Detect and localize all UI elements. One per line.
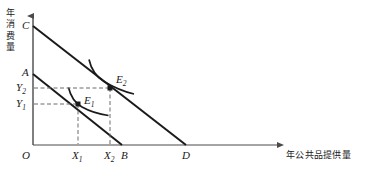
point-label-y2-sub: 2 [22, 87, 26, 96]
point-label-y1: Y1 [16, 98, 26, 112]
point-label-x1-sub: 1 [79, 155, 83, 164]
point-label-b: B [121, 150, 128, 161]
point-label-x1-base: X [72, 149, 79, 161]
economics-diagram: 年消费量 年公共品提供量 O C A Y2 Y1 X1 X2 B D E1 E2 [0, 0, 367, 178]
equilibrium-point-e2 [108, 86, 113, 91]
point-label-y1-sub: 1 [22, 103, 26, 112]
equilibrium-label-e1-sub: 1 [91, 100, 95, 109]
equilibrium-point-e1 [76, 102, 81, 107]
point-label-d: D [182, 150, 190, 161]
origin-label: O [22, 150, 30, 161]
equilibrium-label-e1-base: E [84, 94, 91, 106]
equilibrium-label-e2: E2 [116, 74, 126, 88]
point-label-x2-base: X [104, 149, 111, 161]
point-label-x2: X2 [104, 150, 114, 164]
point-label-x1: X1 [72, 150, 82, 164]
point-label-a: A [22, 67, 29, 78]
x-axis-label: 年公共品提供量 [286, 150, 351, 160]
point-label-y2: Y2 [16, 82, 26, 96]
equilibrium-label-e2-sub: 2 [123, 79, 127, 88]
y-axis-label: 年消费量 [5, 8, 16, 53]
equilibrium-label-e1: E1 [84, 95, 94, 109]
equilibrium-label-e2-base: E [116, 73, 123, 85]
point-label-x2-sub: 2 [111, 155, 115, 164]
point-label-c: C [22, 20, 29, 31]
